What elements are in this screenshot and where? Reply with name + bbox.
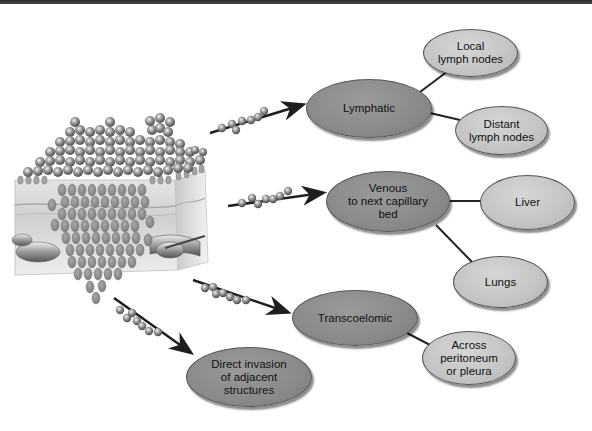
node-across-peritoneum-label: Across peritoneum or pleura <box>440 339 498 378</box>
node-across-peritoneum: Across peritoneum or pleura <box>422 331 516 385</box>
node-lymphatic-label: Lymphatic <box>343 102 395 115</box>
tumor-tissue-illustration <box>12 113 208 304</box>
arrow-to-venous <box>228 187 322 208</box>
node-direct-invasion: Direct invasion of adjacent structures <box>186 347 312 407</box>
arrow-to-direct-invasion <box>114 298 190 352</box>
node-transcoelomic: Transcoelomic <box>292 290 418 346</box>
node-lymphatic: Lymphatic <box>306 79 432 138</box>
node-direct-invasion-label: Direct invasion of adjacent structures <box>211 358 286 397</box>
node-local-lymph-nodes-label: Local lymph nodes <box>438 40 503 66</box>
node-venous-label: Venous to next capillary bed <box>348 182 428 221</box>
node-lungs-label: Lungs <box>485 276 516 289</box>
node-lungs: Lungs <box>453 256 548 308</box>
node-distant-lymph-nodes: Distant lymph nodes <box>455 106 548 155</box>
node-distant-lymph-nodes-label: Distant lymph nodes <box>469 118 534 144</box>
tumor-surface-cells <box>23 113 207 177</box>
node-transcoelomic-label: Transcoelomic <box>318 312 392 325</box>
arrow-to-lymphatic <box>210 105 302 134</box>
arrow-to-transcoelomic <box>193 280 287 312</box>
connector-lymphatic-distant <box>430 113 460 120</box>
connector-lymphatic-local <box>420 71 448 92</box>
node-liver: Liver <box>480 175 575 230</box>
node-venous: Venous to next capillary bed <box>326 171 450 232</box>
node-local-lymph-nodes: Local lymph nodes <box>423 29 518 77</box>
connector-venous-lungs <box>436 225 472 262</box>
node-liver-label: Liver <box>515 196 540 209</box>
